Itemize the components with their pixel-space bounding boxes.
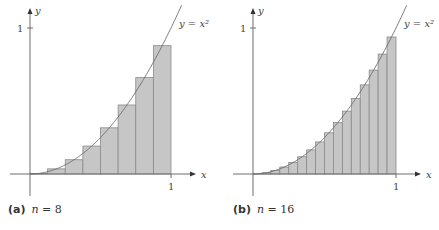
figure-canvas: xy11y = x² xy11y = x² — [0, 0, 439, 230]
y-tick-label: 1 — [17, 23, 23, 34]
caption-b: (b)n = 16 — [233, 203, 294, 216]
riemann-bar — [136, 78, 154, 174]
riemann-bar — [333, 123, 342, 174]
caption-a: (a)n = 8 — [8, 203, 62, 216]
x-axis-arrow-icon — [415, 172, 421, 177]
x-tick-label: 1 — [393, 181, 399, 192]
riemann-bar — [316, 142, 325, 174]
x-axis-arrow-icon — [190, 172, 196, 177]
riemann-bar — [325, 133, 334, 174]
y-axis-label: y — [34, 5, 41, 16]
y-axis-arrow-icon — [251, 8, 256, 14]
chart-panel-a: xy11y = x² — [10, 5, 209, 196]
riemann-bar — [360, 85, 369, 174]
function-label: y = x² — [403, 18, 434, 29]
x-axis-label: x — [201, 169, 207, 180]
x-axis-label: x — [426, 169, 432, 180]
riemann-bar — [387, 37, 396, 174]
riemann-bar — [65, 160, 83, 174]
y-axis-arrow-icon — [28, 8, 33, 14]
riemann-bar — [378, 54, 387, 174]
chart-panel-b: xy11y = x² — [233, 5, 434, 196]
y-axis-label: y — [257, 5, 264, 16]
function-label: y = x² — [178, 18, 209, 29]
riemann-bar — [342, 111, 351, 174]
riemann-bar — [351, 99, 360, 174]
caption-equation: n = 8 — [31, 203, 61, 216]
riemann-bar — [307, 150, 316, 174]
x-tick-label: 1 — [168, 181, 174, 192]
riemann-bar — [153, 46, 171, 174]
riemann-bar — [118, 105, 136, 174]
caption-tag: (b) — [233, 203, 251, 216]
caption-equation: n = 16 — [257, 203, 294, 216]
caption-tag: (a) — [8, 203, 25, 216]
y-tick-label: 1 — [240, 23, 246, 34]
riemann-bar — [83, 146, 101, 174]
riemann-bar — [369, 70, 378, 174]
